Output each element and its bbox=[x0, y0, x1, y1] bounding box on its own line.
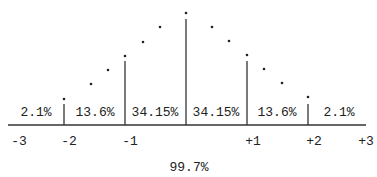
segment-label-3: 34.15% bbox=[132, 105, 179, 120]
x-tick-minus-1: -1 bbox=[122, 134, 138, 149]
x-tick-plus-2: +2 bbox=[306, 134, 322, 149]
segment-label-2: 13.6% bbox=[75, 105, 114, 120]
segment-label-4: 34.15% bbox=[193, 105, 240, 120]
normal-distribution-chart: 2.1% 13.6% 34.15% 34.15% 13.6% 2.1% -3 -… bbox=[0, 0, 377, 177]
total-percentage-label: 99.7% bbox=[169, 160, 208, 175]
segment-label-1: 2.1% bbox=[20, 105, 51, 120]
x-tick-minus-3: -3 bbox=[11, 134, 27, 149]
segment-label-5: 13.6% bbox=[257, 105, 296, 120]
segment-label-6: 2.1% bbox=[323, 105, 354, 120]
x-tick-minus-2: -2 bbox=[61, 134, 77, 149]
x-tick-plus-3: +3 bbox=[358, 134, 374, 149]
x-tick-plus-1: +1 bbox=[245, 134, 261, 149]
